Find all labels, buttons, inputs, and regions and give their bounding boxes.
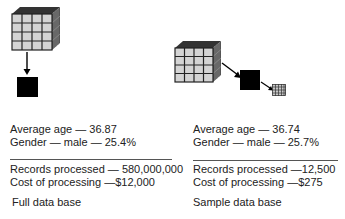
sample-data-cube-icon — [173, 40, 221, 82]
left-caption: Full data base — [12, 196, 81, 209]
processed-block-icon — [17, 77, 38, 97]
left-records: Records processed — 580,000,000 — [10, 163, 183, 176]
right-average-age: Average age — 36.74 — [193, 123, 300, 136]
right-records: Records processed —12,500 — [193, 163, 335, 176]
right-gender: Gender — male — 25.7% — [193, 136, 319, 149]
down-arrow-icon — [22, 52, 32, 76]
right-cost: Cost of processing —$275 — [193, 176, 323, 189]
full-data-cube-icon — [10, 5, 60, 50]
left-divider — [10, 159, 172, 160]
left-gender: Gender — male — 25.4% — [10, 136, 136, 149]
left-average-age: Average age — 36.87 — [10, 123, 117, 136]
right-divider — [193, 160, 338, 161]
sample-grid-icon — [272, 84, 286, 96]
right-caption: Sample data base — [193, 196, 282, 209]
diagonal-arrow-icon — [222, 63, 242, 79]
left-cost: Cost of processing —$12,000 — [10, 176, 155, 189]
processed-block-icon — [240, 70, 260, 90]
